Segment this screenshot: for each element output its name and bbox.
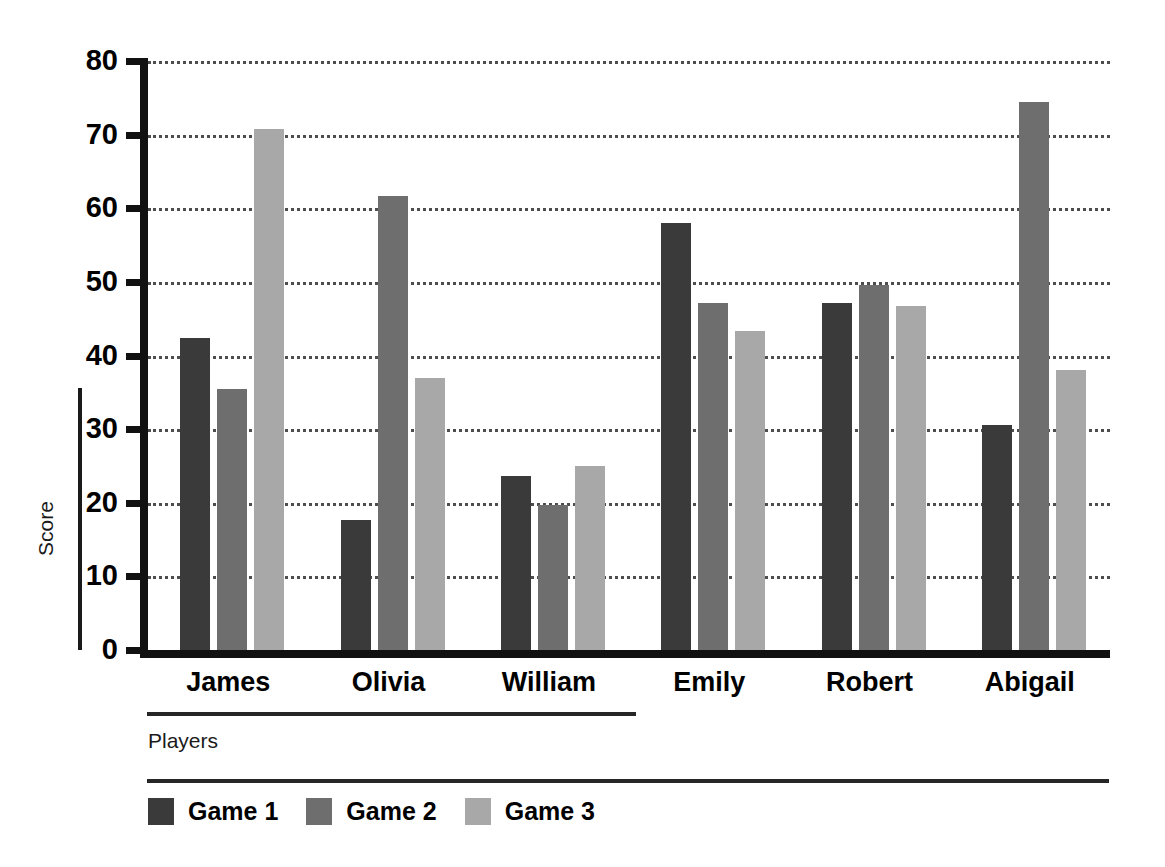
y-axis-tick-label: 80 [62,46,118,75]
bar [735,331,765,650]
legend-item[interactable]: Game 2 [306,797,436,826]
y-axis-tick-mark [126,279,144,286]
gridline [148,576,1110,579]
bar [501,476,531,650]
bar [180,338,210,650]
bar [415,378,445,650]
legend-label: Game 1 [188,797,278,826]
y-axis-tick-mark [126,353,144,360]
y-axis-tick-mark [126,647,144,654]
y-axis-tick-label: 20 [62,488,118,517]
x-axis-category-label: Emily [629,668,789,698]
x-axis-category-label: Robert [789,668,949,698]
y-axis-tick-label: 10 [62,561,118,590]
gridline [148,61,1110,64]
bar [661,223,691,650]
gridline [148,503,1110,506]
y-axis-tick-mark [126,132,144,139]
bar [982,425,1012,650]
y-axis-tick-mark [126,573,144,580]
x-axis-category-label: James [148,668,308,698]
bar [341,520,371,650]
legend-label: Game 3 [505,797,595,826]
bar [1056,370,1086,650]
y-axis-tick-label: 0 [62,635,118,664]
bar [822,303,852,650]
bar-chart: Score 01020304050607080 JamesOliviaWilli… [0,0,1165,867]
x-axis-line [140,650,1110,658]
y-axis-tick-label: 30 [62,414,118,443]
legend-item[interactable]: Game 3 [465,797,595,826]
legend-swatch-icon [465,798,491,825]
gridline [148,356,1110,359]
y-axis-tick-label: 70 [62,120,118,149]
y-axis-tick-mark [126,500,144,507]
y-axis-tick-label: 50 [62,267,118,296]
bar [538,505,568,650]
y-axis-tick-mark [126,426,144,433]
y-axis-tick-mark [126,58,144,65]
bar [698,303,728,650]
bar [217,389,247,650]
legend-rule [147,779,1109,783]
bar [1019,102,1049,650]
legend-item[interactable]: Game 1 [148,797,278,826]
x-axis-title: Players [148,729,218,753]
legend-label: Game 2 [346,797,436,826]
chart-legend: Game 1Game 2Game 3 [148,797,595,826]
y-axis-tick-label: 60 [62,193,118,222]
y-axis-tick-mark [126,205,144,212]
plot-area [148,61,1110,650]
bar [378,196,408,650]
x-axis-category-label: William [469,668,629,698]
x-axis-category-label: Olivia [308,668,468,698]
x-axis-category-label: Abigail [950,668,1110,698]
gridline [148,135,1110,138]
bar [575,466,605,650]
legend-swatch-icon [306,798,332,825]
x-axis-title-rule [147,712,636,716]
bar [254,129,284,650]
gridline [148,429,1110,432]
legend-swatch-icon [148,798,174,825]
gridline [148,282,1110,285]
bar [859,285,889,650]
bar [896,306,926,650]
gridline [148,208,1110,211]
y-axis-title: Score [34,501,58,556]
y-axis-tick-label: 40 [62,341,118,370]
